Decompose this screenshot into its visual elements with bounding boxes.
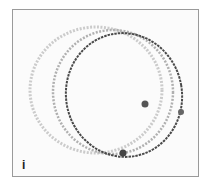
knot-3 [120, 150, 127, 157]
knot-1 [142, 101, 149, 108]
panel-label: i [22, 158, 25, 172]
bangle-light [30, 27, 162, 153]
bangle-middle [53, 30, 173, 154]
knot-2 [178, 109, 184, 115]
bangle-dark [56, 24, 192, 166]
bangles-illustration [0, 0, 207, 185]
